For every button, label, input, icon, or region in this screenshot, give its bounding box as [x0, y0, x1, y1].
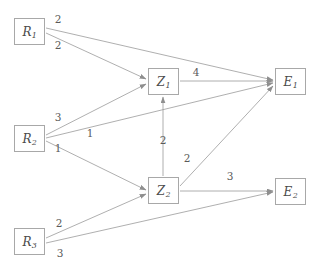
node-r2[interactable]: R2: [14, 125, 45, 152]
node-label-e1: E1: [284, 75, 298, 87]
node-e1[interactable]: E1: [275, 68, 306, 95]
node-e2[interactable]: E2: [275, 178, 306, 205]
graph-edges-canvas: [0, 0, 316, 269]
edge-weight-z2-e1: 2: [184, 153, 191, 164]
node-label-z1: Z1: [157, 75, 170, 87]
node-subscript: 3: [32, 241, 37, 250]
edge-weight-r2-e1: 1: [87, 128, 94, 139]
edge-weight-r3-z2: 2: [56, 218, 63, 229]
node-label-e2: E2: [284, 185, 298, 197]
node-subscript: 2: [32, 138, 37, 147]
node-label-r3: R3: [22, 235, 36, 247]
node-label-z2: Z2: [157, 184, 170, 196]
edge-weight-r2-z2: 1: [55, 143, 62, 154]
graph-diagram: R1R2R3Z1Z2E1E2 22311234223: [0, 0, 316, 269]
edge-weight-r2-z1: 3: [55, 112, 62, 123]
edge-weight-z2-e2: 3: [227, 171, 234, 182]
edge-weight-r3-e2: 3: [57, 248, 64, 259]
node-subscript: 1: [293, 81, 298, 90]
node-subscript: 2: [165, 190, 170, 199]
node-subscript: 1: [32, 31, 37, 40]
edge-weight-z2-z1: 2: [160, 135, 167, 146]
node-subscript: 1: [165, 81, 170, 90]
node-z1[interactable]: Z1: [148, 68, 179, 95]
edge-r2-to-z1: [46, 84, 146, 135]
node-label-r2: R2: [22, 132, 36, 144]
node-z2[interactable]: Z2: [148, 177, 179, 204]
node-letter: E: [284, 184, 293, 198]
node-r3[interactable]: R3: [14, 228, 45, 255]
node-letter: Z: [157, 183, 165, 197]
node-letter: E: [284, 74, 293, 88]
node-letter: R: [22, 131, 31, 145]
edge-weight-r1-e1: 2: [55, 14, 62, 25]
node-letter: R: [22, 24, 31, 38]
edge-weight-r1-z1: 2: [55, 40, 62, 51]
node-r1[interactable]: R1: [14, 18, 45, 45]
node-letter: Z: [157, 74, 165, 88]
node-subscript: 2: [293, 191, 298, 200]
edge-weight-z1-e1: 4: [193, 67, 200, 78]
node-letter: R: [22, 234, 31, 248]
node-label-r1: R1: [22, 25, 36, 37]
